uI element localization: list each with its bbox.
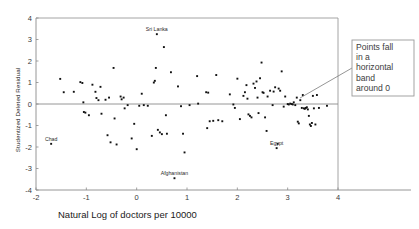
data-point (147, 105, 149, 107)
data-point (180, 105, 182, 107)
data-point (157, 129, 159, 131)
data-point (251, 116, 253, 118)
data-point (63, 91, 65, 93)
data-point (121, 98, 123, 100)
y-tick-label: -3 (25, 164, 32, 173)
data-point (141, 93, 143, 95)
data-point (258, 112, 260, 114)
data-point (108, 97, 110, 99)
data-point (314, 124, 316, 126)
data-point (256, 81, 258, 83)
data-point (182, 133, 184, 135)
x-tick-label: 1 (185, 193, 189, 202)
data-point (91, 84, 93, 86)
data-point (215, 74, 217, 76)
data-point (59, 78, 61, 80)
data-point (221, 120, 223, 122)
data-point (299, 99, 301, 101)
x-tick-label: 4 (336, 193, 340, 202)
data-point (293, 101, 295, 103)
data-point (311, 122, 313, 124)
data-point (124, 107, 126, 109)
data-point (259, 77, 261, 79)
data-point (154, 80, 156, 82)
data-point (272, 104, 274, 106)
data-point-label: Afghanistan (161, 170, 189, 176)
data-point (316, 94, 318, 96)
data-points (50, 33, 328, 179)
data-point (151, 135, 153, 137)
data-point (242, 95, 244, 97)
data-point (229, 93, 231, 95)
data-point (161, 133, 163, 135)
data-point (263, 92, 265, 94)
data-point (206, 127, 208, 129)
data-point (312, 95, 314, 97)
x-tick-label: 0 (135, 193, 139, 202)
data-point (212, 120, 214, 122)
data-point (310, 125, 312, 127)
data-point (264, 116, 266, 118)
data-point (84, 112, 86, 114)
data-point (279, 90, 281, 92)
y-tick-label: 0 (28, 100, 32, 109)
y-tick-label: -4 (25, 186, 32, 195)
annotation-callout: Points fallin ahorizontalbandaround 0 (300, 40, 414, 98)
data-point (82, 101, 84, 103)
data-point (98, 99, 100, 101)
data-point-label: Egypt (270, 140, 284, 146)
data-point (205, 91, 207, 93)
data-point (298, 122, 300, 124)
data-point (267, 96, 269, 98)
data-point (94, 91, 96, 93)
data-point (269, 90, 271, 92)
x-axis-title: Natural Log of doctors per 10000 (58, 209, 197, 220)
data-point (253, 83, 255, 85)
data-point (153, 82, 155, 84)
data-point (105, 99, 107, 101)
data-point (244, 91, 246, 93)
data-point (306, 106, 308, 108)
data-point (96, 97, 98, 99)
data-point (307, 108, 309, 110)
data-point (120, 96, 122, 98)
data-point (313, 107, 315, 109)
data-point (261, 62, 263, 64)
y-tick-label: 1 (28, 78, 32, 87)
data-point (73, 91, 75, 93)
data-point (276, 147, 278, 149)
data-point (131, 138, 133, 140)
data-point (88, 114, 90, 116)
data-point (163, 46, 165, 48)
data-point (101, 113, 103, 115)
data-point (143, 104, 145, 106)
data-point-label: Chad (45, 136, 58, 142)
y-tick-label: -1 (25, 121, 32, 130)
data-point (123, 97, 125, 99)
data-point (155, 67, 157, 69)
data-point (138, 105, 140, 107)
data-point (114, 118, 116, 120)
scatter-plot-figure: -2-101234 -4-3-2-101234 Sri LankaChadAfg… (0, 0, 419, 229)
x-tick-label: 2 (235, 193, 239, 202)
data-point (156, 33, 158, 35)
y-tick-label: -2 (25, 143, 32, 152)
data-point (278, 88, 280, 90)
data-point (209, 120, 211, 122)
y-tick-label: 3 (28, 35, 32, 44)
data-point (292, 104, 294, 106)
data-point (326, 105, 328, 107)
data-point (170, 71, 172, 73)
data-point (245, 84, 247, 86)
data-point (127, 104, 129, 106)
data-point (296, 97, 298, 99)
data-point (247, 98, 249, 100)
data-point (159, 131, 161, 133)
data-point-labels: Sri LankaChadAfghanistanEgypt (45, 26, 284, 176)
data-point (165, 114, 167, 116)
data-point (174, 177, 176, 179)
x-tick-label: -1 (83, 193, 90, 202)
data-point (196, 75, 198, 77)
data-point (239, 118, 241, 120)
data-point (136, 148, 138, 150)
